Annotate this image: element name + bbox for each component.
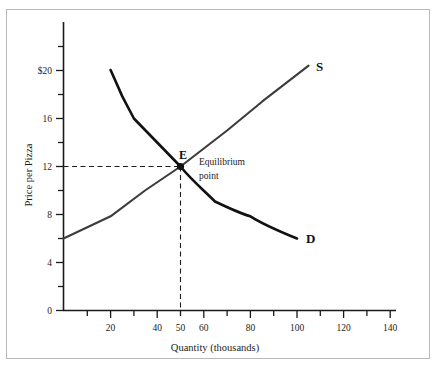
x-tick-label-140: 140 xyxy=(383,323,398,333)
x-tick-label-40: 40 xyxy=(152,323,162,333)
y-axis-title: Price per Pizza xyxy=(23,143,34,206)
equilibrium-annotation-line2: point xyxy=(199,171,219,181)
y-tick-label-12: 12 xyxy=(43,162,53,172)
equilibrium-annotation-line1: Equilibrium xyxy=(199,157,246,167)
demand-curve-label: D xyxy=(306,231,315,246)
x-axis-ticks xyxy=(87,311,390,319)
guide-lines xyxy=(64,167,181,311)
x-axis-tick-labels: 20 40 50 60 80 100 120 140 xyxy=(106,323,398,333)
x-tick-label-80: 80 xyxy=(246,323,256,333)
x-tick-label-120: 120 xyxy=(336,323,351,333)
supply-demand-chart: 0 4 8 12 16 $20 20 40 xyxy=(0,0,437,370)
y-tick-label-0: 0 xyxy=(47,306,52,316)
equilibrium-point-marker xyxy=(177,163,184,170)
y-axis-ticks xyxy=(56,47,64,311)
y-tick-label-20: $20 xyxy=(38,66,53,76)
y-tick-label-16: 16 xyxy=(43,114,53,124)
supply-curve-label: S xyxy=(316,59,323,74)
y-axis-tick-labels: 0 4 8 12 16 $20 xyxy=(38,66,53,316)
x-tick-label-50: 50 xyxy=(176,323,186,333)
x-axis-title: Quantity (thousands) xyxy=(171,342,260,354)
y-tick-label-4: 4 xyxy=(47,258,52,268)
x-tick-label-60: 60 xyxy=(199,323,209,333)
x-tick-label-20: 20 xyxy=(106,323,116,333)
supply-demand-figure: 0 4 8 12 16 $20 20 40 xyxy=(0,0,437,370)
y-tick-label-8: 8 xyxy=(47,210,52,220)
equilibrium-point-label: E xyxy=(179,148,187,162)
x-tick-label-100: 100 xyxy=(290,323,305,333)
